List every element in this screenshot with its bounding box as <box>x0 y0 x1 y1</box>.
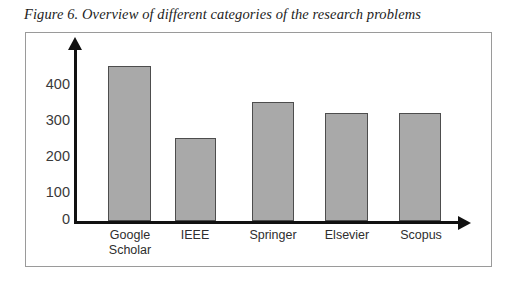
figure-frame <box>25 32 492 267</box>
figure-caption: Figure 6. Overview of different categori… <box>24 6 494 23</box>
